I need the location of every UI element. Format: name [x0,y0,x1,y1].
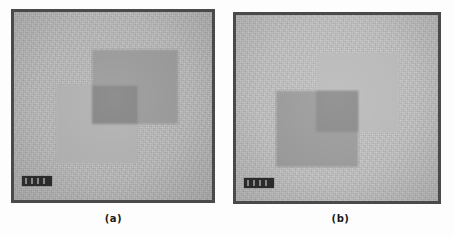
figure-panel-b: (b) [227,0,454,236]
square-grain-b-3 [316,91,358,132]
panel-caption-a: (a) [0,213,227,224]
square-grain-a-3 [92,85,138,124]
scale-bar-a [22,176,52,186]
overlap-square-b [316,91,358,132]
figure-panel-a: (a) [0,0,227,236]
scale-bar-b [244,178,274,188]
scale-bar-ticks-b [247,180,271,186]
micrograph-image-a [11,9,215,203]
scale-bar-ticks-a [25,178,49,184]
overlap-square-a [92,85,138,124]
figure-container: (a) (b) [0,0,454,236]
micrograph-image-b [233,12,441,204]
panel-caption-b: (b) [227,213,454,224]
